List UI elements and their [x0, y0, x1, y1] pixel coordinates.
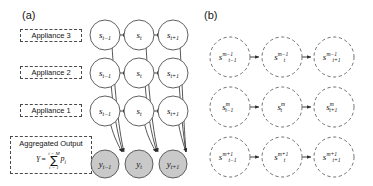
- state-node[interactable]: [90, 96, 120, 126]
- latent-state-node[interactable]: [210, 137, 250, 177]
- latent-state-node[interactable]: [314, 37, 354, 77]
- output-nodes: [91, 150, 187, 178]
- state-node[interactable]: [124, 58, 154, 88]
- state-node[interactable]: [158, 58, 188, 88]
- figure-container: (a) Appliance 3 Appliance 2 Appliance 1 …: [0, 0, 373, 186]
- latent-state-node[interactable]: [262, 87, 302, 127]
- state-node[interactable]: [158, 20, 188, 50]
- latent-state-node[interactable]: [314, 87, 354, 127]
- state-node[interactable]: [158, 96, 188, 126]
- latent-state-node[interactable]: [210, 37, 250, 77]
- state-node[interactable]: [124, 20, 154, 50]
- latent-state-node[interactable]: [262, 137, 302, 177]
- panel-b-graph: [190, 0, 373, 186]
- latent-state-node[interactable]: [210, 87, 250, 127]
- latent-state-node[interactable]: [262, 37, 302, 77]
- panel-a: (a) Appliance 3 Appliance 2 Appliance 1 …: [0, 0, 190, 186]
- latent-state-node[interactable]: [314, 137, 354, 177]
- state-node[interactable]: [90, 58, 120, 88]
- state-node[interactable]: [124, 96, 154, 126]
- panel-b-nodes: [210, 37, 354, 177]
- output-node[interactable]: [125, 150, 153, 178]
- panel-b: (b): [190, 0, 373, 186]
- output-node[interactable]: [159, 150, 187, 178]
- panel-a-graph: [0, 0, 190, 186]
- state-node[interactable]: [90, 20, 120, 50]
- state-nodes: [90, 20, 188, 126]
- output-node[interactable]: [91, 150, 119, 178]
